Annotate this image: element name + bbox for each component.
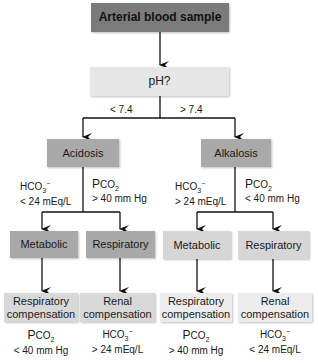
pco2-name: P: [92, 177, 100, 191]
acidosis-node: Acidosis: [47, 139, 119, 167]
acidosis-metabolic-node: Metabolic: [10, 231, 78, 258]
alkalosis-metabolic-node: Metabolic: [163, 231, 231, 259]
pco2-sc: CO: [36, 330, 51, 341]
hco3-name: HCO: [102, 329, 124, 340]
comp-line1: Respiratory: [168, 295, 224, 308]
hco3-name: HCO: [175, 181, 197, 192]
pco2-value: > 40 mm Hg: [92, 193, 147, 204]
acidosis-respiratory-criterion: PCO2 > 40 mm Hg: [92, 177, 147, 205]
pco2-sub: 2: [115, 185, 119, 192]
comp-line2: compensation: [162, 308, 231, 321]
comp-value: < 40 mm Hg: [14, 345, 69, 356]
pco2-sub: 2: [268, 185, 272, 192]
acidosis-respiratory-node: Respiratory: [86, 231, 155, 258]
pco2-sc: CO: [253, 179, 268, 190]
comp-line1: Respiratory: [13, 295, 69, 308]
alkalosis-comp-hco3: HCO3− < 24 mEq/L: [238, 328, 312, 357]
acidosis-comp-hco3: HCO3− > 24 mEq/L: [80, 328, 155, 357]
alkalosis-node: Alkalosis: [201, 139, 271, 167]
branch-right-label: > 7.4: [180, 104, 203, 116]
pco2-name: P: [28, 328, 36, 342]
pco2-sc: CO: [191, 330, 206, 341]
respiratory-label: Respiratory: [245, 239, 301, 252]
metabolic-label: Metabolic: [173, 239, 220, 252]
hco3-name: HCO: [20, 181, 42, 192]
comp-line2: compensation: [241, 308, 310, 321]
alkalosis-renal-compensation-node: Renal compensation: [238, 293, 312, 322]
root-label: Arterial blood sample: [99, 11, 222, 25]
hco3-sup: −: [129, 328, 133, 335]
alkalosis-metabolic-criterion: HCO3− > 24 mEq/L: [175, 180, 226, 208]
acidosis-label: Acidosis: [63, 147, 104, 160]
hco3-sub: 3: [42, 187, 46, 194]
alkalosis-label: Alkalosis: [214, 147, 257, 160]
hco3-value: < 24 mEq/L: [20, 196, 71, 207]
ph-question-node: pH?: [90, 67, 229, 96]
comp-line1: Renal: [103, 295, 132, 308]
hco3-sub: 3: [282, 335, 286, 342]
hco3-sup: −: [201, 180, 205, 187]
acidosis-metabolic-criterion: HCO3− < 24 mEq/L: [20, 180, 71, 208]
hco3-sub: 3: [125, 335, 129, 342]
alkalosis-respiratory-compensation-node: Respiratory compensation: [160, 293, 232, 322]
acidosis-renal-compensation-node: Renal compensation: [80, 293, 155, 322]
alkalosis-respiratory-node: Respiratory: [238, 231, 309, 259]
metabolic-label: Metabolic: [20, 238, 67, 251]
pco2-name: P: [245, 177, 253, 191]
pco2-name: P: [183, 328, 191, 342]
pco2-sub: 2: [206, 336, 210, 343]
alkalosis-respiratory-criterion: PCO2 < 40 mm Hg: [245, 177, 300, 205]
respiratory-label: Respiratory: [92, 238, 148, 251]
hco3-sup: −: [46, 180, 50, 187]
root-node: Arterial blood sample: [91, 3, 229, 32]
alkalosis-comp-pco2: PCO2 > 40 mm Hg: [160, 328, 232, 357]
comp-line2: compensation: [7, 308, 76, 321]
hco3-name: HCO: [260, 329, 282, 340]
ph-label: pH?: [148, 75, 170, 89]
comp-value: < 24 mEq/L: [249, 344, 300, 355]
hco3-sub: 3: [197, 187, 201, 194]
hco3-value: > 24 mEq/L: [175, 196, 226, 207]
comp-value: > 24 mEq/L: [92, 344, 143, 355]
comp-line1: Renal: [261, 295, 290, 308]
pco2-sub: 2: [51, 336, 55, 343]
branch-left-label: < 7.4: [110, 104, 133, 116]
hco3-sup: −: [286, 328, 290, 335]
acidosis-comp-pco2: PCO2 < 40 mm Hg: [4, 328, 78, 357]
acidosis-respiratory-compensation-node: Respiratory compensation: [4, 293, 78, 322]
pco2-value: < 40 mm Hg: [245, 193, 300, 204]
pco2-sc: CO: [100, 179, 115, 190]
comp-line2: compensation: [83, 308, 152, 321]
comp-value: > 40 mm Hg: [169, 345, 224, 356]
